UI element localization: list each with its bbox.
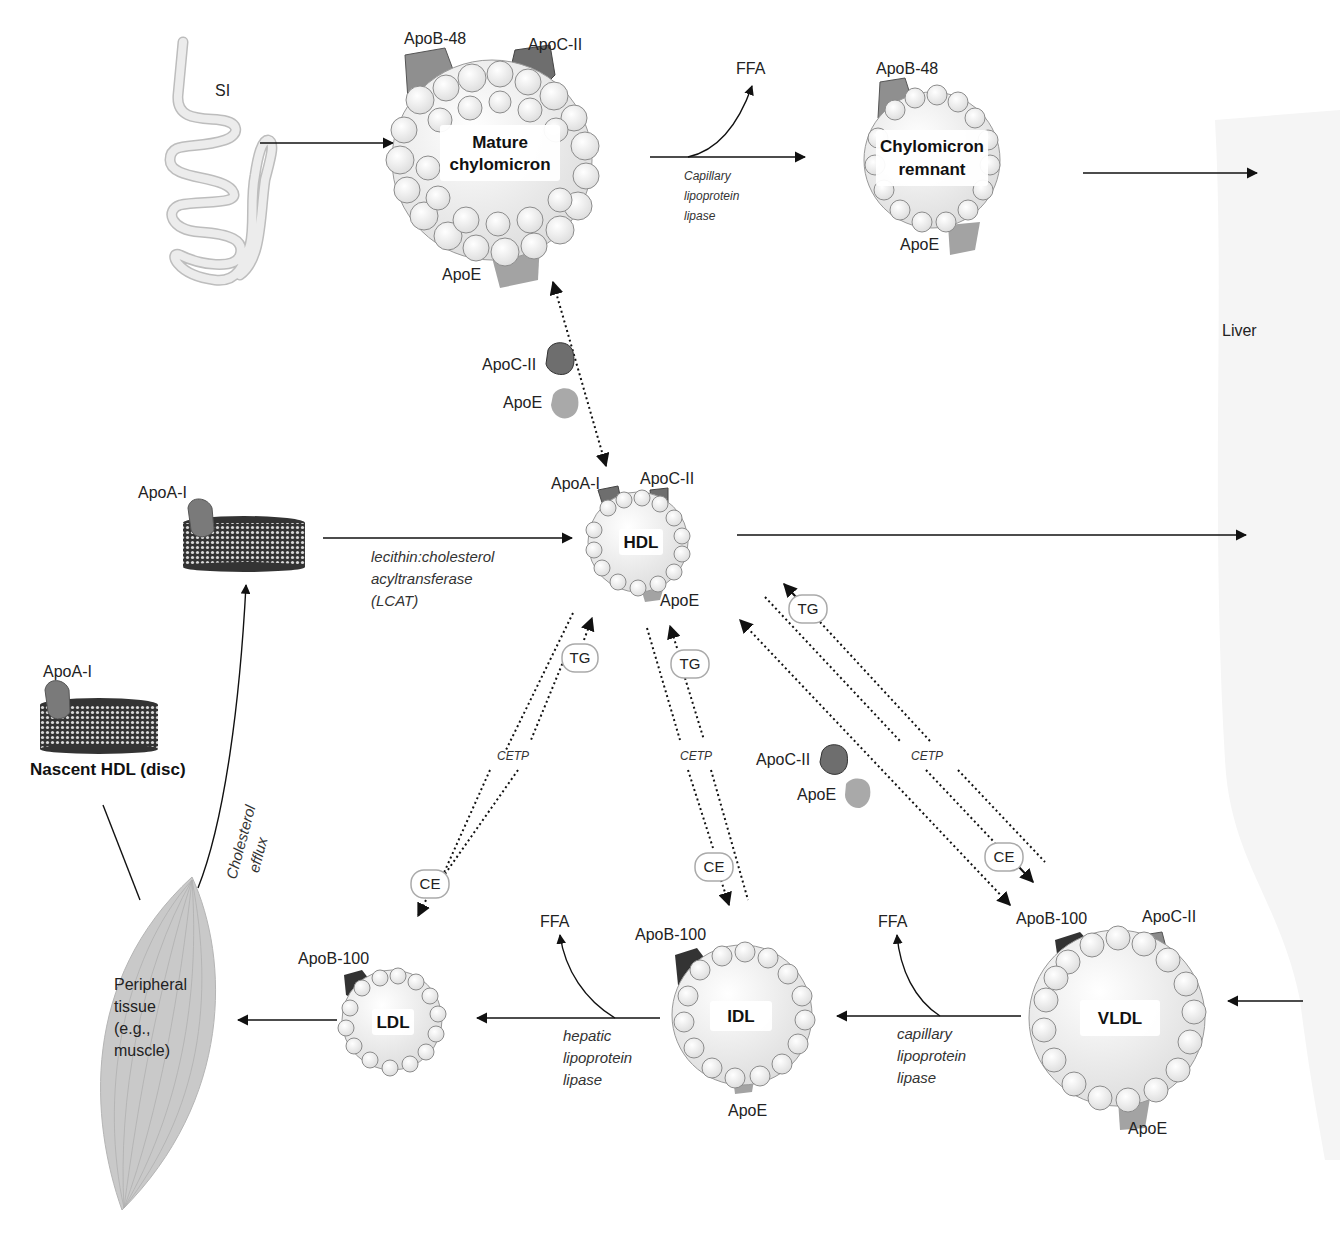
vldl-apoe-label: ApoE [1128, 1120, 1167, 1137]
hepatic-lpl-line3: lipase [563, 1071, 602, 1088]
svg-text:CE: CE [704, 858, 725, 875]
hdl-apoe-label: ApoE [660, 592, 699, 609]
cetp-label-1: CETP [497, 749, 529, 763]
chylomicron-remnant: Chylomicron remnant ApoB-48 ApoE [864, 60, 1000, 255]
nascent-hdl-title: Nascent HDL (disc) [30, 760, 186, 779]
nascent-apoa1-label: ApoA-I [43, 663, 92, 680]
peripheral-tissue: Peripheral tissue (e.g., muscle) [101, 877, 216, 1210]
hdl-apoa1-label: ApoA-I [551, 475, 600, 492]
cetp-label-3: CETP [911, 749, 943, 763]
svg-text:TG: TG [570, 649, 591, 666]
arrow-ffa-release-top [688, 86, 752, 157]
lcat-line3: (LCAT) [371, 592, 418, 609]
hdl-title: HDL [624, 533, 659, 552]
idl-title: IDL [727, 1007, 754, 1026]
svg-text:CE: CE [420, 875, 441, 892]
vldl-particle: VLDL ApoB-100 ApoC-II ApoE [1016, 908, 1206, 1137]
remnant-apob48-label: ApoB-48 [876, 60, 938, 77]
lcat-line1: lecithin:cholesterol [371, 548, 495, 565]
cholesterol-efflux-label: Cholesterol efflux [222, 802, 278, 886]
tissue-label-line3: (e.g., [114, 1020, 150, 1037]
capillary-lpl-top-line3: lipase [684, 209, 716, 223]
capillary-lpl-top-line2: lipoprotein [684, 189, 740, 203]
hepatic-lpl-line2: lipoprotein [563, 1049, 632, 1066]
apocii-protein-icon [820, 745, 848, 775]
idl-apoe-label: ApoE [728, 1102, 767, 1119]
mature-chylomicron: Mature chylomicron ApoB-48 ApoC-II ApoE [386, 30, 599, 288]
apocii-protein-icon [546, 343, 574, 375]
disc-hdl-upper: ApoA-I [138, 484, 305, 572]
free-apocii-label-upper: ApoC-II [482, 356, 536, 373]
apoa1-protein-icon [188, 499, 214, 537]
disc-upper-apoa1-label: ApoA-I [138, 484, 187, 501]
apocii-label: ApoC-II [528, 36, 582, 53]
remnant-title-line2: remnant [898, 160, 965, 179]
idl-particle: IDL ApoB-100 ApoE [635, 926, 815, 1119]
small-intestine-icon: SI [170, 42, 272, 280]
cetp-label-2: CETP [680, 749, 712, 763]
free-apoe-label-upper: ApoE [503, 394, 542, 411]
free-apos-lower: ApoC-II ApoE [756, 745, 870, 808]
liver: Liver [1215, 110, 1340, 1160]
lcat-line2: acyltransferase [371, 570, 473, 587]
tissue-label-line4: muscle) [114, 1042, 170, 1059]
capillary-lpl-top-line1: Capillary [684, 169, 732, 183]
capillary-lpl-bottom-line2: lipoprotein [897, 1047, 966, 1064]
apoe-label: ApoE [442, 266, 481, 283]
capillary-lpl-bottom-line1: capillary [897, 1025, 954, 1042]
apoe-protein-icon [551, 388, 578, 418]
apoa1-protein-icon [45, 681, 70, 719]
free-apoe-label-lower: ApoE [797, 786, 836, 803]
remnant-apoe-label: ApoE [900, 236, 939, 253]
tissue-label-line1: Peripheral [114, 976, 187, 993]
nascent-hdl-disc: ApoA-I Nascent HDL (disc) [30, 663, 186, 779]
idl-apob100-label: ApoB-100 [635, 926, 706, 943]
cetp-exchange-vldl: TG CETP CE [740, 584, 1045, 905]
cetp-exchange-ldl: TG CETP CE [411, 613, 598, 916]
remnant-title-line1: Chylomicron [880, 137, 984, 156]
arrow-ffa-release-hepatic [560, 935, 615, 1018]
hepatic-lpl-line1: hepatic [563, 1027, 612, 1044]
vldl-title: VLDL [1098, 1009, 1142, 1028]
mature-chylomicron-title-line2: chylomicron [449, 155, 550, 174]
si-label: SI [215, 82, 230, 99]
ldl-particle: LDL ApoB-100 [298, 950, 446, 1076]
free-apocii-label-lower: ApoC-II [756, 751, 810, 768]
ldl-apob100-label: ApoB-100 [298, 950, 369, 967]
ffa-label-hepatic: FFA [540, 913, 570, 930]
hdl-apocii-label: ApoC-II [640, 470, 694, 487]
tissue-label-line2: tissue [114, 998, 156, 1015]
svg-text:TG: TG [680, 655, 701, 672]
ldl-title: LDL [376, 1013, 409, 1032]
line-nascent-to-tissue [103, 805, 140, 900]
svg-text:TG: TG [798, 600, 819, 617]
ffa-label-capillary: FFA [878, 913, 908, 930]
arrow-ffa-release-capillary [897, 935, 940, 1016]
vldl-apob100-label: ApoB-100 [1016, 910, 1087, 927]
capillary-lpl-bottom-line3: lipase [897, 1069, 936, 1086]
liver-label: Liver [1222, 322, 1257, 339]
free-apos-upper: ApoC-II ApoE [482, 343, 578, 419]
vldl-apocii-label: ApoC-II [1142, 908, 1196, 925]
cetp-exchange-idl: TG CETP CE [647, 626, 748, 905]
apoe-protein-icon [845, 778, 870, 808]
mature-chylomicron-title-line1: Mature [472, 133, 528, 152]
svg-text:CE: CE [994, 848, 1015, 865]
ffa-label-top: FFA [736, 60, 766, 77]
apob48-label: ApoB-48 [404, 30, 466, 47]
hdl-particle: HDL ApoA-I ApoC-II ApoE [551, 470, 699, 609]
